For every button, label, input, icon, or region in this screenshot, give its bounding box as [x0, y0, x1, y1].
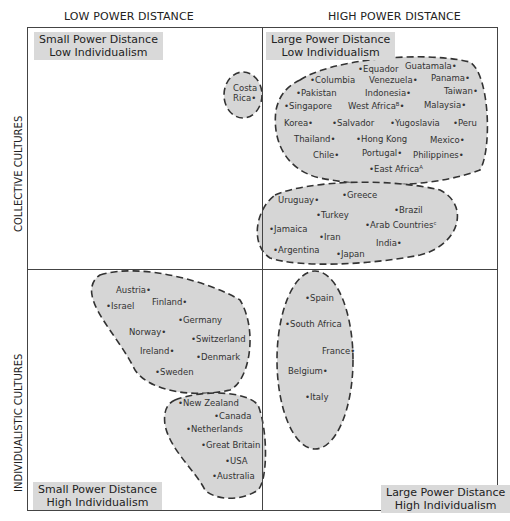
country-label: Panama•: [431, 73, 470, 83]
quadrant-label-large-low: Large Power Distance Low Individualism: [266, 32, 395, 60]
country-label: Thailand•: [294, 134, 336, 144]
country-label: •Spain: [305, 293, 334, 303]
country-label: Austria•: [116, 285, 151, 295]
country-label: •Switzerland: [191, 334, 246, 344]
country-label: Ireland•: [140, 346, 174, 356]
country-label: Malaysia•: [424, 100, 466, 110]
country-label: •Australia: [212, 471, 255, 481]
country-label: France•: [322, 346, 355, 356]
country-label: •Jamaica: [269, 224, 307, 234]
country-label: •South Africa: [285, 319, 342, 329]
country-label: •Turkey: [316, 210, 349, 220]
country-label: •Italy: [305, 392, 328, 402]
country-label: •Argentina: [273, 245, 319, 255]
country-label: •Denmark: [196, 352, 240, 362]
country-label: •Great Britain: [201, 440, 260, 450]
country-label: Guatamala•: [405, 61, 457, 71]
country-label: •Singapore: [284, 101, 332, 111]
country-label: Chile•: [313, 150, 339, 160]
country-label: Korea•: [284, 118, 313, 128]
country-label: Philippines•: [413, 150, 464, 160]
country-label: •Brazil: [394, 205, 423, 215]
country-label: Norway•: [129, 327, 166, 337]
country-label: Finland•: [152, 297, 187, 307]
country-label: Venezuela•: [369, 75, 418, 85]
country-label: •Equador: [358, 64, 398, 74]
country-label: •Pakistan: [296, 88, 337, 98]
country-label: Indonesia•: [365, 88, 411, 98]
country-label: •East Africaᴬ: [369, 164, 423, 174]
country-label: Costa: [233, 83, 257, 93]
country-label: Rica•: [233, 93, 256, 103]
country-label: •Germany: [178, 315, 222, 325]
country-label: Belgium•: [288, 366, 328, 376]
country-label: •Salvador: [332, 118, 374, 128]
country-label: Portugal•: [362, 148, 402, 158]
country-label: Mexico•: [430, 135, 465, 145]
country-label: •Arab Countriesᶜ: [365, 220, 437, 230]
country-label: •USA: [225, 456, 248, 466]
quadrant-label-large-high: Large Power Distance High Individualism: [381, 485, 510, 513]
country-label: Uruguay•: [278, 195, 319, 205]
country-label: •Canada: [214, 411, 251, 421]
country-label: •Israel: [106, 301, 134, 311]
horizontal-divider: [27, 269, 498, 270]
country-label: India•: [376, 238, 402, 248]
country-label: West Africaᴮ•: [348, 101, 405, 111]
country-label: •Hong Kong: [356, 134, 407, 144]
quadrant-label-small-low: Small Power Distance Low Individualism: [34, 32, 163, 60]
country-label: •Iran: [319, 232, 341, 242]
country-label: •Netherlands: [186, 424, 243, 434]
country-label: •Japan: [336, 249, 365, 259]
country-label: •Sweden: [155, 367, 194, 377]
country-label: •Yugoslavia: [390, 118, 440, 128]
country-label: •Greece: [342, 190, 377, 200]
country-label: •New Zealand: [178, 398, 239, 408]
quadrant-label-small-high: Small Power Distance High Individualism: [33, 482, 162, 510]
country-label: •Columbia: [310, 75, 355, 85]
country-label: •Peru: [453, 118, 477, 128]
country-label: Taiwan•: [444, 86, 478, 96]
